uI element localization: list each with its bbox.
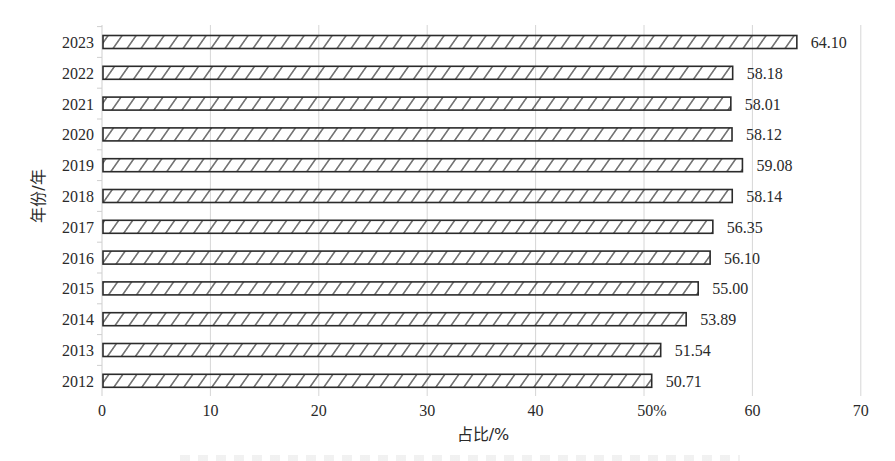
value-label: 58.14 [746,188,782,205]
bar-2019 [103,159,742,172]
bar-2023 [103,36,797,49]
y-tick-label: 2013 [62,342,94,359]
y-tick-label: 2019 [62,157,94,174]
y-axis-title: 年份/年 [29,169,48,222]
value-label: 59.08 [756,157,792,174]
x-axis-title: 占比/% [457,425,510,444]
value-label: 56.10 [724,250,760,267]
y-tick-label: 2020 [62,126,94,143]
value-label: 56.35 [727,219,763,236]
value-label: 58.01 [745,96,781,113]
y-tick-label: 2014 [62,311,94,328]
bar-2013 [103,344,661,357]
value-label: 58.12 [746,126,782,143]
value-label: 64.10 [811,34,847,51]
bar-2012 [103,374,652,387]
y-tick-label: 2012 [62,373,94,390]
x-tick-label: 60 [744,402,760,419]
x-tick-label: 0 [98,402,106,419]
y-tick-label: 2017 [62,219,94,236]
value-label: 55.00 [712,280,748,297]
x-tick-label: 20 [311,402,327,419]
x-tick-label: 70 [853,402,869,419]
y-tick-label: 2022 [62,65,94,82]
y-tick-label: 2016 [62,250,94,267]
y-axis: 2023202220212020201920182017201620152014… [62,25,102,396]
bar-2021 [103,97,731,110]
bar-2016 [103,251,710,264]
y-tick-label: 2021 [62,96,94,113]
bar-2022 [103,66,733,79]
bar-2015 [103,282,698,295]
y-tick-label: 2015 [62,280,94,297]
bars: 64.1058.1858.0158.1259.0858.1456.3556.10… [103,34,847,390]
y-tick-label: 2018 [62,188,94,205]
bar-2020 [103,128,732,141]
bar-chart: 2023202220212020201920182017201620152014… [0,0,895,461]
x-axis: 01020304050%6070 [98,402,869,419]
value-label: 50.71 [666,373,702,390]
x-tick-label: 10 [202,402,218,419]
value-label: 58.18 [747,65,783,82]
y-tick-label: 2023 [62,34,94,51]
bar-2017 [103,220,713,233]
bar-2018 [103,190,732,203]
figure-caption-cropped [180,455,740,461]
x-tick-label: 40 [528,402,544,419]
bar-2014 [103,313,686,326]
value-label: 51.54 [675,342,711,359]
x-tick-label: 30 [419,402,435,419]
value-label: 53.89 [700,311,736,328]
x-tick-label: 50% [637,402,666,419]
